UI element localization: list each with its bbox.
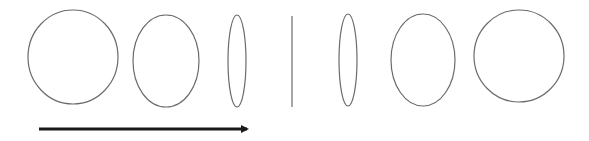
ellipse-sequence-diagram (0, 0, 589, 141)
shapes-layer (28, 10, 564, 107)
ellipse-narrow-left (228, 15, 246, 107)
ellipse-narrow-right (339, 14, 357, 106)
ellipse-medium-right (391, 14, 455, 106)
circle-full-left (28, 10, 118, 104)
ellipse-medium-left (133, 15, 199, 107)
diagram-canvas (0, 0, 589, 141)
circle-full-right (474, 10, 564, 102)
